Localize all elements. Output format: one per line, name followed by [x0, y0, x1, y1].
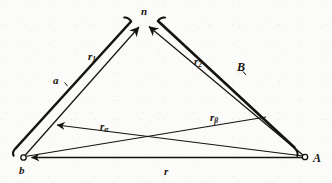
- vector-r1: [25, 27, 140, 156]
- label-apex-n: n: [141, 6, 147, 17]
- label-vector-r1: r1: [88, 51, 96, 64]
- point-A-marker: [302, 154, 307, 159]
- vector-diagram-figure: n a B r1 r2 rα rβ r b A: [0, 0, 332, 183]
- label-side-a: a: [53, 75, 59, 86]
- label-point-A: A: [313, 152, 321, 164]
- vector-r2: [149, 27, 304, 156]
- label-vector-r2-subscript: 2: [198, 60, 202, 69]
- point-b-marker: [21, 155, 26, 160]
- label-vector-r-alpha: rα: [100, 121, 108, 134]
- label-point-b: b: [19, 165, 25, 176]
- brace-B: [158, 17, 298, 155]
- label-vector-r1-subscript: 1: [92, 55, 96, 64]
- label-side-B: B: [237, 61, 245, 73]
- diagram-canvas: [0, 0, 332, 183]
- vector-r-beta: [25, 117, 266, 157]
- label-vector-r-alpha-subscript: α: [104, 125, 108, 134]
- tick-a-leader: [65, 83, 68, 87]
- label-vector-r2: r2: [194, 56, 202, 69]
- label-vector-r-beta-subscript: β: [214, 116, 218, 125]
- label-vector-r: r: [164, 166, 168, 177]
- brace-a: [13, 17, 132, 155]
- label-vector-r-beta: rβ: [210, 112, 218, 125]
- vector-r-alpha: [57, 125, 303, 156]
